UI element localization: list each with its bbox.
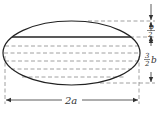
label-top-gap-numerator: b — [149, 22, 154, 31]
label-depth-variable: b — [151, 55, 157, 65]
label-depth-denominator: 2 — [144, 60, 150, 68]
liquid-hatch-lines — [4, 46, 140, 77]
label-top-gap-denominator: 2 — [147, 31, 153, 39]
ellipse-tank-diagram: b 2 3 2 b 2a — [0, 0, 164, 128]
extension-lines — [5, 21, 155, 104]
label-width: 2a — [64, 95, 77, 106]
label-depth-numerator: 3 — [145, 52, 150, 60]
